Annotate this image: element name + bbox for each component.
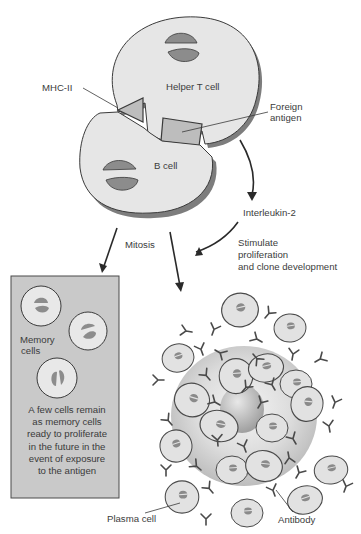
label-mitosis: Mitosis bbox=[125, 239, 155, 251]
memory-note-line-6: to the antigen bbox=[12, 465, 122, 477]
label-helper-t-cell: Helper T cell bbox=[166, 81, 220, 93]
label-memory-cells-1: Memory bbox=[20, 334, 55, 346]
memory-note-line-2: as memory cells bbox=[12, 416, 122, 428]
label-b-cell: B cell bbox=[154, 160, 177, 172]
label-interleukin-2: Interleukin-2 bbox=[243, 207, 296, 219]
label-foreign-antigen-2: antigen bbox=[270, 112, 301, 124]
label-antibody: Antibody bbox=[278, 514, 315, 526]
memory-note-line-3: ready to proliferate bbox=[12, 428, 122, 440]
label-plasma-cell: Plasma cell bbox=[107, 513, 156, 525]
memory-note-line-4: in the future in the bbox=[12, 441, 122, 453]
label-stimulate-3: and clone development bbox=[238, 261, 337, 273]
plasma-cell-cluster bbox=[153, 290, 352, 527]
label-stimulate-2: proliferation bbox=[238, 249, 288, 261]
label-foreign-antigen-1: Foreign bbox=[270, 101, 303, 113]
label-memory-cells-2: cells bbox=[21, 345, 40, 357]
label-stimulate-1: Stimulate bbox=[238, 237, 278, 249]
label-mhc-ii: MHC-II bbox=[42, 82, 72, 94]
memory-note-line-5: event of exposure bbox=[12, 453, 122, 465]
memory-note-line-1: A few cells remain bbox=[12, 404, 122, 416]
memory-cells-note: A few cells remain as memory cells ready… bbox=[12, 404, 122, 477]
